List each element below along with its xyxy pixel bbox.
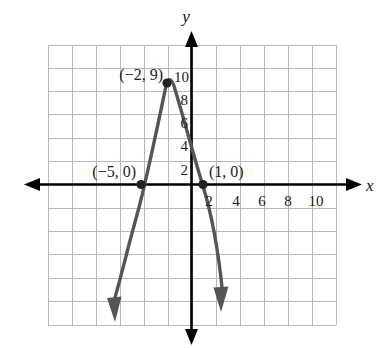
left-intercept-annotation: (−5, 0) — [92, 163, 136, 181]
x-tick-2: 2 — [205, 193, 213, 209]
y-tick-6: 6 — [181, 115, 189, 131]
coordinate-plane: y x 10 8 6 4 2 2 4 6 8 10 (−2, 9) (−5, 0… — [0, 0, 387, 348]
vertex-annotation: (−2, 9) — [119, 66, 163, 84]
y-tick-4: 4 — [181, 138, 189, 154]
x-axis-left-arrowhead — [24, 178, 40, 191]
x-tick-4: 4 — [232, 193, 240, 209]
vertex-point — [162, 78, 171, 87]
y-tick-8: 8 — [181, 92, 189, 108]
graph-figure: y x 10 8 6 4 2 2 4 6 8 10 (−2, 9) (−5, 0… — [0, 0, 387, 348]
y-axis-top-arrowhead — [185, 31, 198, 47]
x-tick-6: 6 — [258, 193, 266, 209]
x-tick-8: 8 — [284, 193, 292, 209]
right-intercept-annotation: (1, 0) — [209, 163, 244, 181]
x-tick-10: 10 — [309, 193, 324, 209]
x-axis-label: x — [365, 176, 374, 195]
curve-left-arrowhead — [107, 297, 122, 323]
curve-right-arrowhead — [214, 287, 229, 313]
y-axis-label: y — [180, 7, 190, 26]
y-axis-bottom-arrowhead — [185, 329, 198, 345]
y-tick-2: 2 — [181, 162, 189, 178]
left-intercept-point — [136, 180, 145, 189]
y-tick-10: 10 — [174, 69, 189, 85]
right-intercept-point — [198, 180, 207, 189]
x-axis-right-arrowhead — [346, 178, 362, 191]
